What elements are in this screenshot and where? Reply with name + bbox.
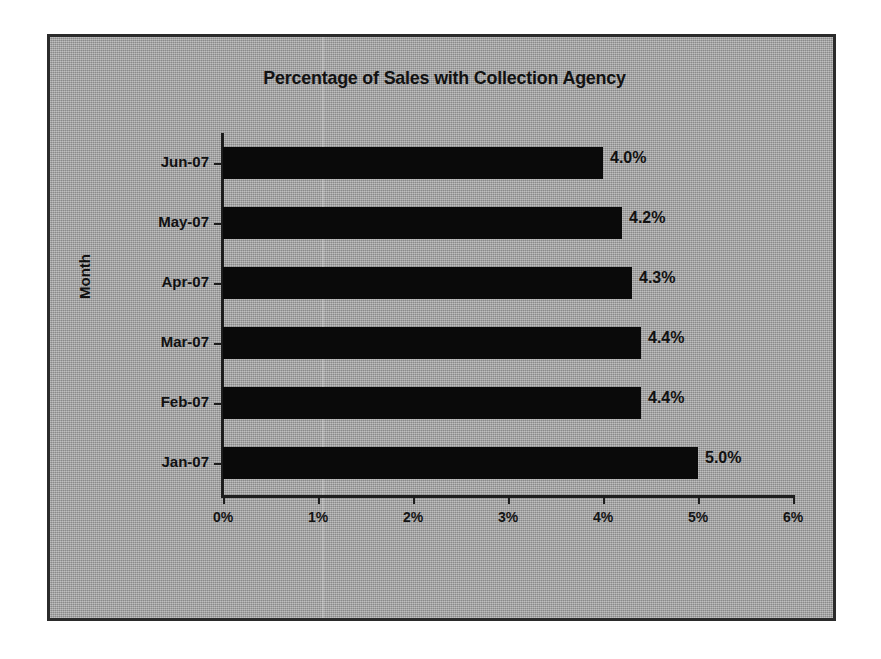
y-axis-category-label: Feb-07 [161,393,209,410]
y-axis-title: Month [76,254,93,299]
x-axis-tick-label: 3% [498,509,518,525]
bar[interactable] [223,147,603,179]
bar-value-label: 4.4% [648,329,684,347]
x-axis-tick-label: 0% [213,509,233,525]
y-axis-category-label: Apr-07 [161,273,209,290]
bar[interactable] [223,387,641,419]
bar-value-label: 5.0% [705,449,741,467]
x-axis-tick [793,495,795,504]
y-axis-category-label: Jun-07 [161,153,209,170]
x-axis-tick [508,495,510,504]
bar[interactable] [223,447,698,479]
y-axis-category-label: Jan-07 [161,453,209,470]
x-axis-tick [318,495,320,504]
x-axis-tick-label: 6% [783,509,803,525]
bar-value-label: 4.4% [648,389,684,407]
plot-area: 0% 1% 2% 3% 4% 5% 6% Jun-07 4.0% Ma [223,133,793,495]
y-axis-line [221,133,224,495]
x-axis-tick-label: 2% [403,509,423,525]
y-axis-tick [214,343,222,345]
bar[interactable] [223,207,622,239]
scanned-page: Percentage of Sales with Collection Agen… [0,0,881,659]
x-axis-tick-label: 1% [308,509,328,525]
x-axis-tick [698,495,700,504]
x-axis-tick [413,495,415,504]
x-axis-tick [603,495,605,504]
y-axis-tick [214,463,222,465]
bar-value-label: 4.0% [610,149,646,167]
bar-value-label: 4.3% [639,269,675,287]
x-axis-tick-label: 5% [688,509,708,525]
chart-frame: Percentage of Sales with Collection Agen… [47,34,836,621]
y-axis-tick [214,283,222,285]
x-axis-tick-label: 4% [593,509,613,525]
x-axis-tick [223,495,225,504]
y-axis-tick [214,403,222,405]
y-axis-tick [214,223,222,225]
y-axis-category-label: May-07 [158,213,209,230]
bar[interactable] [223,267,632,299]
chart-title: Percentage of Sales with Collection Agen… [74,67,816,89]
bar-value-label: 4.2% [629,209,665,227]
bar[interactable] [223,327,641,359]
y-axis-tick [214,163,222,165]
y-axis-category-label: Mar-07 [161,333,209,350]
